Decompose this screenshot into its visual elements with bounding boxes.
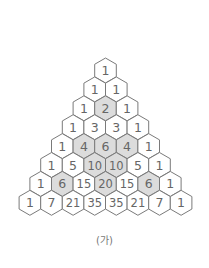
hex-value: 1 <box>156 158 164 173</box>
hex-value: 35 <box>87 196 102 210</box>
hex-value: 4 <box>123 139 131 154</box>
hex-value: 1 <box>177 195 185 210</box>
hex-value: 1 <box>69 120 77 135</box>
hex-value: 6 <box>145 176 153 191</box>
hex-value: 10 <box>87 159 102 173</box>
hex-value: 4 <box>80 139 88 154</box>
hex-value: 1 <box>37 176 45 191</box>
hex-value: 1 <box>123 101 131 116</box>
hex-value: 1 <box>26 195 34 210</box>
hex-value: 1 <box>58 139 66 154</box>
hex-value: 7 <box>156 195 164 210</box>
hex-value: 6 <box>58 176 66 191</box>
hex-value: 1 <box>80 101 88 116</box>
hex-value: 1 <box>48 158 56 173</box>
hex-value: 1 <box>91 82 99 97</box>
hex-value: 6 <box>102 139 110 154</box>
pascal-triangle-diagram: 1111211331146411510105116152015611721353… <box>0 0 209 268</box>
hex-value: 2 <box>102 101 110 116</box>
hex-value: 3 <box>112 120 120 135</box>
hex-value: 35 <box>109 196 124 210</box>
hex-value: 1 <box>112 82 120 97</box>
hex-value: 15 <box>77 177 92 191</box>
hex-value: 1 <box>166 176 174 191</box>
hex-value: 1 <box>134 120 142 135</box>
figure-caption: (가) <box>0 232 209 247</box>
hex-value: 1 <box>145 139 153 154</box>
hex-value: 21 <box>66 196 81 210</box>
hex-value: 15 <box>120 177 135 191</box>
hex-value: 10 <box>109 159 124 173</box>
hex-value: 5 <box>134 158 142 173</box>
hex-value: 7 <box>48 195 56 210</box>
hex-value: 5 <box>69 158 77 173</box>
hex-value: 21 <box>131 196 146 210</box>
hex-value: 20 <box>98 177 113 191</box>
hex-value: 1 <box>102 63 110 78</box>
hex-value: 3 <box>91 120 99 135</box>
